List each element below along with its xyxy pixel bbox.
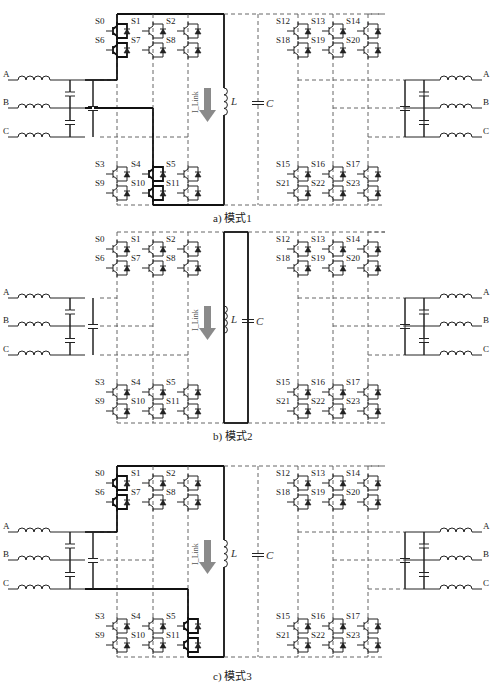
switch-label: S22	[311, 178, 325, 188]
dc-capacitor-icon	[252, 554, 264, 557]
switch-label: S20	[346, 253, 361, 263]
output-phase-label-a: A	[483, 521, 490, 531]
diode-icon	[195, 247, 201, 252]
diode-icon	[160, 172, 166, 177]
switch-label: S6	[95, 487, 105, 497]
switch-s22: S22	[311, 396, 346, 420]
output-inductor-c	[440, 585, 472, 589]
switch-label: S2	[166, 234, 176, 244]
switch-label: S1	[131, 16, 141, 26]
switch-s6: S6	[95, 253, 130, 277]
switch-s20: S20	[346, 253, 381, 277]
switch-label: S17	[346, 159, 361, 169]
diode-icon	[305, 266, 311, 271]
diode-icon	[160, 409, 166, 414]
output-inductor-b	[440, 556, 472, 560]
switch-s19: S19	[311, 35, 346, 59]
diode-icon	[340, 500, 346, 505]
switch-s22: S22	[311, 178, 346, 202]
diode-icon	[124, 247, 130, 252]
diode-icon	[340, 390, 346, 395]
switch-label: S21	[276, 178, 290, 188]
diode-icon	[160, 29, 166, 34]
diode-icon	[195, 624, 201, 629]
circuit-diagram: S0S6S1S7S2S8S3S9S4S10S5S11LCI_LinkABCS12…	[0, 0, 492, 684]
caption-a: a) 模式1	[213, 209, 252, 225]
switch-label: S11	[166, 630, 180, 640]
phase-label-a: A	[3, 287, 10, 297]
switch-label: S9	[95, 178, 105, 188]
diode-icon	[160, 247, 166, 252]
output-phase-label-b: B	[483, 549, 489, 559]
diode-icon	[375, 409, 381, 414]
switch-label: S10	[131, 178, 146, 188]
switch-label: S11	[166, 396, 180, 406]
switch-label: S7	[131, 35, 141, 45]
switch-label: S19	[311, 35, 326, 45]
output-phase-label-b: B	[483, 315, 489, 325]
diode-icon	[340, 191, 346, 196]
diode-icon	[375, 247, 381, 252]
output-inductor-c	[440, 351, 472, 355]
switch-label: S0	[95, 234, 105, 244]
diode-icon	[195, 643, 201, 648]
switch-label: S17	[346, 377, 361, 387]
diode-icon	[160, 48, 166, 53]
switch-s21: S21	[276, 630, 311, 654]
switch-s10: S10	[131, 396, 166, 420]
switch-label: S17	[346, 611, 361, 621]
switch-label: S14	[346, 234, 361, 244]
switch-label: S5	[166, 611, 176, 621]
diode-icon	[375, 624, 381, 629]
switch-label: S22	[311, 396, 325, 406]
switch-s11: S11	[166, 178, 201, 202]
current-arrow-icon	[199, 540, 216, 574]
switch-label: S13	[311, 234, 326, 244]
switch-label: S23	[346, 178, 361, 188]
diode-icon	[305, 247, 311, 252]
switch-label: S8	[166, 487, 176, 497]
switch-label: S23	[346, 630, 361, 640]
input-inductor-c	[18, 133, 50, 137]
switch-label: S15	[276, 611, 291, 621]
current-label: I_Link	[191, 543, 200, 565]
switch-label: S6	[95, 35, 105, 45]
diode-icon	[305, 409, 311, 414]
switch-label: S21	[276, 396, 290, 406]
diode-icon	[375, 481, 381, 486]
diode-icon	[124, 390, 130, 395]
switch-s23: S23	[346, 396, 381, 420]
diode-icon	[340, 266, 346, 271]
phase-label-c: C	[3, 344, 9, 354]
diode-icon	[124, 191, 130, 196]
diode-icon	[195, 48, 201, 53]
diode-icon	[305, 191, 311, 196]
diode-icon	[124, 48, 130, 53]
diode-icon	[305, 172, 311, 177]
switch-label: S10	[131, 396, 146, 406]
diode-icon	[160, 266, 166, 271]
diode-icon	[305, 48, 311, 53]
diode-icon	[340, 29, 346, 34]
diode-icon	[305, 500, 311, 505]
diode-icon	[160, 481, 166, 486]
switch-s10: S10	[131, 630, 166, 654]
switch-label: S16	[311, 377, 326, 387]
switch-label: S23	[346, 396, 361, 406]
capacitor-label: C	[256, 315, 264, 327]
phase-label-a: A	[3, 521, 10, 531]
capacitor-label: C	[266, 97, 274, 109]
input-inductor-a	[18, 76, 50, 80]
diode-icon	[124, 500, 130, 505]
switch-s8: S8	[166, 253, 201, 277]
switch-s19: S19	[311, 487, 346, 511]
diode-icon	[375, 643, 381, 648]
switch-label: S20	[346, 35, 361, 45]
switch-label: S16	[311, 611, 326, 621]
switch-s23: S23	[346, 178, 381, 202]
output-phase-label-c: C	[483, 126, 489, 136]
phase-label-c: C	[3, 578, 9, 588]
diode-icon	[340, 48, 346, 53]
diode-icon	[375, 500, 381, 505]
input-inductor-b	[18, 556, 50, 560]
